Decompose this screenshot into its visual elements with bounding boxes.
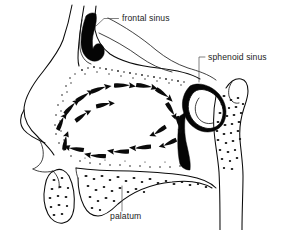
figure-background (0, 0, 297, 230)
palatum-label: palatum (110, 211, 141, 221)
sphenoid-sinus-label: sphenoid sinus (208, 52, 267, 62)
anatomical-figure: frontal sinus sphenoid sinus palatum (0, 0, 297, 230)
nasal-cavity-diagram: frontal sinus sphenoid sinus palatum (0, 0, 297, 230)
frontal-sinus-label: frontal sinus (122, 13, 170, 23)
